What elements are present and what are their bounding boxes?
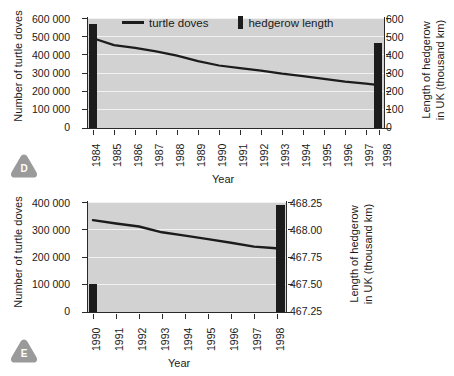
y-tick-right [288,284,293,285]
y-tick-right [386,18,391,19]
y-tick-right [386,91,391,92]
bar-hedgerow-1998 [374,43,382,128]
x-tick [185,314,186,319]
bar-swatch-icon [238,16,243,29]
grid-line [88,54,384,55]
x-tick-label: 1989 [195,144,207,167]
grid-line [88,73,384,74]
x-tick [116,314,117,319]
x-tick [261,130,262,135]
y-tick-label-left: 300 000 [22,68,70,78]
x-tick [114,130,115,135]
panel-badge-letter: E [9,338,39,364]
x-tick [366,130,367,135]
x-tick-label: 1992 [258,144,270,167]
x-tick [93,130,94,135]
y-tick-right [386,128,391,129]
grid-line [88,229,286,230]
y-tick-label-left: 400 000 [22,50,70,60]
y-axis-title-right-line2-e: in UK (thousand km) [362,192,374,316]
panel-badge-letter: D [9,153,39,179]
x-tick [93,314,94,319]
y-tick-right [288,257,293,258]
y-tick-right [386,73,391,74]
y-tick-left [82,284,87,285]
line-swatch-icon [122,21,144,24]
x-tick-label: 1995 [205,328,217,351]
y-tick-label-right: 467.50 [290,279,338,289]
x-tick [156,130,157,135]
grid-line [88,91,384,92]
y-tick-left [82,312,87,313]
x-tick-label: 1997 [363,144,375,167]
y-tick-label-left: 200 000 [22,252,70,262]
legend-label: turtle doves [149,17,208,29]
grid-line [88,284,286,285]
y-tick-left [82,202,87,203]
x-tick [139,314,140,319]
y-tick-label-left: 200 000 [22,86,70,96]
bar-hedgerow-1998 [276,205,285,312]
x-tick [135,130,136,135]
x-tick-label: 1996 [342,144,354,167]
x-tick-label: 1993 [279,144,291,167]
y-tick-right [386,36,391,37]
x-tick [277,314,278,319]
y-tick-right [386,54,391,55]
y-tick-label-left: 0 [22,306,70,316]
y-tick-left [82,54,87,55]
legend-d: turtle doves hedgerow length [122,16,334,29]
x-tick-label: 1990 [90,328,102,351]
chart-panel-d: Number of turtle doves 600 000 500 000 4… [0,0,454,190]
y-tick-label-right: 468.25 [290,198,338,208]
x-tick [324,130,325,135]
x-tick-label: 1993 [159,328,171,351]
y-tick-left [82,36,87,37]
grid-line [88,257,286,258]
y-axis-left-e [87,201,88,313]
y-tick-left [82,73,87,74]
y-tick-label-left: 100 000 [22,104,70,114]
x-tick-label: 1988 [174,144,186,167]
y-tick-left [82,257,87,258]
y-tick-right [288,202,293,203]
x-tick-label: 1995 [321,144,333,167]
x-tick [208,314,209,319]
x-axis-title-e: Year [168,357,190,369]
y-axis-title-right-line2-d: in UK (thousand km) [434,8,446,132]
y-axis-title-right-line1-e: Length of hedgerow [348,192,360,316]
y-tick-left [82,91,87,92]
x-tick-label: 1994 [182,328,194,351]
x-tick-label: 1991 [237,144,249,167]
x-axis-title-d: Year [212,173,234,185]
y-tick-label-right: 467.25 [290,306,338,316]
y-tick-label-left: 300 000 [22,225,70,235]
y-tick-left [82,128,87,129]
legend-item-turtle-doves: turtle doves [122,17,208,29]
x-tick-label: 1998 [274,328,286,351]
bar-hedgerow-1990 [89,284,97,312]
y-axis-left-d [87,17,88,129]
x-tick-label: 1992 [136,328,148,351]
x-tick-label: 1985 [111,144,123,167]
panel-badge-d: D [9,153,39,179]
grid-line [88,36,384,37]
x-tick [162,314,163,319]
y-tick-label-right: 467.75 [290,252,338,262]
y-tick-label-right: 468.00 [290,225,338,235]
plot-area-d [88,18,384,128]
x-tick-label: 1991 [113,328,125,351]
y-tick-label-left: 600 000 [22,14,70,24]
legend-item-hedgerow-length: hedgerow length [238,16,333,29]
y-tick-label-left: 100 000 [22,279,70,289]
y-tick-label-left: 500 000 [22,32,70,42]
y-tick-left [82,109,87,110]
y-tick-right [288,229,293,230]
grid-line [88,109,384,110]
grid-line [88,202,286,203]
y-tick-left [82,18,87,19]
chart-panel-e: Number of turtle doves 400 000 300 000 2… [0,186,454,376]
x-tick [254,314,255,319]
y-axis-title-right-line1-d: Length of hedgerow [420,8,432,132]
x-tick [198,130,199,135]
